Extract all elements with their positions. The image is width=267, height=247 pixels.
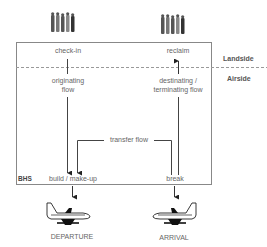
- build-makeup-label: build / make-up: [45, 175, 101, 183]
- transfer-flow-arrow-left: [78, 141, 105, 174]
- departure-label: DEPARTURE: [42, 233, 102, 241]
- transfer-flow-label: transfer flow: [106, 136, 152, 144]
- destinating-flow-label-line2: terminating flow: [148, 86, 208, 94]
- destinating-flow-label-line1: destinating /: [148, 77, 208, 85]
- airplane-icon-arrival: [153, 203, 196, 225]
- break-label: break: [160, 175, 190, 183]
- landside-label: Landside: [223, 55, 254, 62]
- originating-flow-label-line1: originating: [43, 77, 93, 85]
- airside-label: Airside: [227, 75, 251, 82]
- diagram-canvas: [0, 0, 267, 247]
- check-in-label: check-in: [48, 47, 88, 55]
- originating-flow-label-line2: flow: [43, 86, 93, 94]
- bhs-boundary-box: [17, 43, 212, 185]
- reclaim-label: reclaim: [158, 47, 198, 55]
- transfer-flow-arrow: [154, 141, 172, 176]
- passenger-group-icon-right: [161, 14, 185, 34]
- arrival-label: ARRIVAL: [146, 234, 202, 242]
- bhs-label: BHS: [18, 175, 32, 183]
- airplane-icon-departure: [47, 203, 90, 225]
- passenger-group-icon-left: [51, 12, 75, 32]
